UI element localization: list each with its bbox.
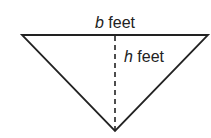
base-label: b feet: [95, 14, 136, 31]
triangle-diagram: b feet h feet: [0, 0, 211, 138]
height-label: h feet: [124, 48, 165, 65]
